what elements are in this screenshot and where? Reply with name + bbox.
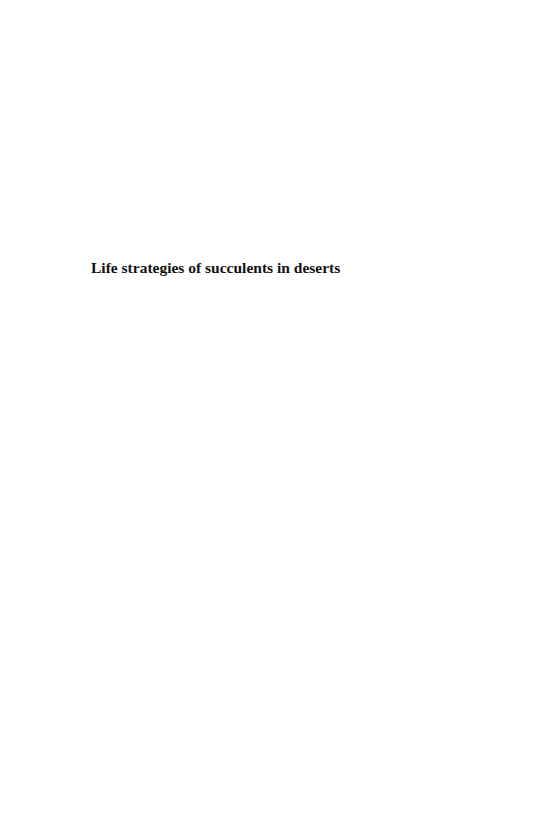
document-page: Life strategies of succulents in deserts bbox=[0, 0, 541, 824]
document-title: Life strategies of succulents in deserts bbox=[91, 259, 340, 277]
